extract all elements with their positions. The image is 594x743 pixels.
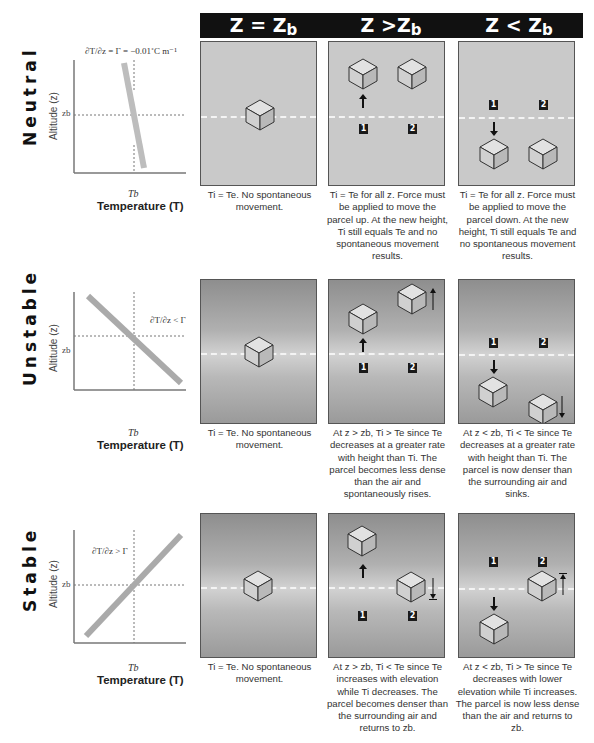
zb-dashed-line: [329, 116, 444, 118]
air-parcel-cube-2: [528, 138, 558, 170]
air-parcel-cube: [243, 570, 273, 602]
stable-panel-greater: 1 2: [328, 513, 445, 658]
air-parcel-cube-2: [527, 570, 557, 602]
unstable-lapse-annotation: ∂T/∂z < Γ: [150, 315, 186, 325]
badge-1: 1: [359, 363, 368, 373]
column-header-bar: Z = Zb Z >Zb Z < Zb: [200, 13, 583, 38]
return-down-arrow-icon: [428, 578, 438, 600]
row-label-neutral: Neutral: [20, 46, 40, 146]
zb-dashed-line: [329, 587, 444, 589]
badge-2: 2: [539, 338, 548, 348]
stable-y-axis-label: Altitude (z): [48, 560, 59, 608]
badge-2: 2: [539, 100, 548, 110]
neutral-lapse-annotation: ∂T/∂z = Γ = −0.01˚C m⁻¹: [85, 46, 177, 56]
sink-arrow-icon: [558, 396, 566, 418]
up-arrow-icon: [359, 564, 367, 578]
air-parcel-cube: [244, 336, 274, 368]
caption-neutral-less: Ti = Te for all z. Force must be applied…: [455, 189, 580, 263]
stable-y-tick-zb: zb: [62, 579, 71, 589]
down-arrow-icon: [490, 597, 498, 611]
air-parcel-cube-1: [479, 613, 509, 645]
unstable-y-axis-label: Altitude (z): [48, 324, 59, 372]
unstable-x-tick-tb: Tb: [128, 427, 139, 438]
stable-lapse-annotation: ∂T/∂z > Γ: [92, 546, 128, 556]
badge-1: 1: [489, 100, 498, 110]
neutral-panel-greater: 1 2: [328, 41, 445, 186]
row-label-unstable: Unstable: [20, 269, 40, 386]
column-header-less: Z < Zb: [455, 13, 583, 38]
rise-arrow-icon: [429, 288, 437, 310]
up-arrow-icon: [359, 338, 367, 352]
air-parcel-cube: [245, 99, 275, 131]
air-parcel-cube-2: [396, 571, 426, 603]
air-parcel-cube-1: [478, 376, 508, 408]
air-parcel-cube-1: [479, 138, 509, 170]
badge-2: 2: [408, 124, 417, 134]
badge-1: 1: [358, 611, 367, 621]
caption-unstable-equal: Ti = Te. No spontaneous movement.: [197, 427, 322, 452]
caption-neutral-equal: Ti = Te. No spontaneous movement.: [197, 189, 322, 214]
caption-stable-less: At z < zb, Ti > Te since Te decreases wi…: [455, 661, 580, 735]
unstable-panel-equal: [200, 279, 317, 424]
zb-dashed-line: [459, 117, 574, 119]
return-up-arrow-icon: [558, 573, 568, 595]
neutral-lapse-graph: [40, 40, 190, 224]
unstable-panel-less: 1 2: [458, 279, 575, 424]
air-parcel-cube-1: [347, 525, 377, 557]
air-parcel-cube-1: [348, 303, 378, 335]
caption-unstable-less: At z < zb, Ti < Te since Te decreases at…: [455, 427, 580, 501]
stable-panel-less: 1 2: [458, 513, 575, 658]
air-parcel-cube-2: [397, 58, 427, 90]
column-header-equal: Z = Zb: [200, 13, 327, 38]
air-parcel-cube-1: [348, 58, 378, 90]
caption-stable-greater: At z > zb, Ti < Te since Te increases wi…: [325, 661, 450, 735]
stable-x-axis-label: Temperature (T): [97, 674, 184, 686]
neutral-x-axis-label: Temperature (T): [97, 200, 184, 212]
up-arrow-icon: [359, 94, 367, 108]
badge-1: 1: [489, 338, 498, 348]
badge-2: 2: [538, 557, 547, 567]
badge-2: 2: [408, 611, 417, 621]
neutral-x-tick-tb: Tb: [128, 188, 139, 199]
caption-unstable-greater: At z > zb, Ti > Te since Te decreases at…: [325, 427, 450, 501]
stable-panel-equal: [200, 513, 317, 658]
unstable-panel-greater: 1 2: [328, 279, 445, 424]
badge-1: 1: [359, 124, 368, 134]
zb-dashed-line: [459, 354, 574, 356]
caption-neutral-greater: Ti = Te for all z. Force must be applied…: [325, 189, 450, 263]
zb-dashed-line: [329, 353, 444, 355]
stable-x-tick-tb: Tb: [128, 662, 139, 673]
badge-2: 2: [408, 363, 417, 373]
air-parcel-cube-2: [528, 393, 558, 424]
unstable-y-tick-zb: zb: [62, 345, 71, 355]
row-label-stable: Stable: [20, 527, 40, 612]
neutral-y-tick-zb: zb: [62, 108, 71, 118]
neutral-panel-less: 1 2: [458, 41, 575, 186]
neutral-y-axis-label: Altitude (z): [48, 92, 59, 140]
air-parcel-cube-2: [397, 283, 427, 315]
caption-stable-equal: Ti = Te. No spontaneous movement.: [197, 661, 322, 686]
down-arrow-icon: [490, 360, 498, 374]
neutral-panel-equal: [200, 41, 317, 186]
unstable-x-axis-label: Temperature (T): [97, 439, 184, 451]
column-header-greater: Z >Zb: [327, 13, 455, 38]
badge-1: 1: [489, 557, 498, 567]
down-arrow-icon: [490, 122, 498, 136]
